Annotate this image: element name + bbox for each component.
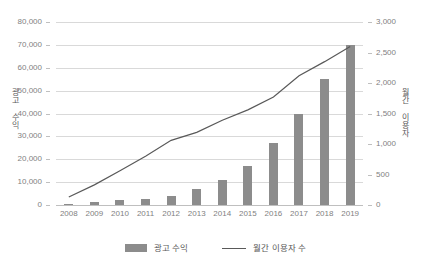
y2-axis-tickmark	[368, 144, 372, 145]
y-axis-tick-label: 80,000	[18, 18, 42, 26]
y2-axis-ticks: 05001,0001,5002,0002,5003,000	[368, 22, 414, 205]
y2-axis-tickmark	[368, 114, 372, 115]
y-axis-tickmark	[46, 114, 50, 115]
chart-legend: 광고 수익 월간 이용자 수	[0, 240, 431, 256]
x-axis-tick-label: 2008	[56, 208, 82, 222]
y2-axis-tick-label: 500	[376, 171, 389, 179]
y-axis-tick-label: 10,000	[18, 178, 42, 186]
legend-label-bar: 광고 수익	[154, 243, 188, 253]
y2-axis-tick-label: 2,500	[376, 49, 396, 57]
y-axis-tickmark	[46, 22, 50, 23]
bar-cell	[107, 22, 133, 205]
y2-axis-tickmark	[368, 175, 372, 176]
y-axis-tick-label: 30,000	[18, 132, 42, 140]
y-axis-ticks: 010,00020,00030,00040,00050,00060,00070,…	[0, 22, 50, 205]
x-axis-tick-label: 2019	[337, 208, 363, 222]
y-axis-tick-label: 40,000	[18, 110, 42, 118]
bar[interactable]	[320, 79, 329, 205]
x-axis-tick-label: 2009	[82, 208, 108, 222]
legend-swatch-line-icon	[222, 248, 246, 249]
legend-swatch-bar-icon	[125, 244, 147, 252]
legend-item-line[interactable]: 월간 이용자 수	[222, 243, 306, 253]
y-axis-tickmark	[46, 136, 50, 137]
bar-series	[56, 22, 363, 205]
bar-cell	[158, 22, 184, 205]
bar[interactable]	[243, 166, 252, 205]
y-axis-tickmark	[46, 45, 50, 46]
y-axis-tickmark	[46, 159, 50, 160]
y2-axis-tick-label: 0	[376, 201, 380, 209]
y-axis-tick-label: 50,000	[18, 87, 42, 95]
bar[interactable]	[218, 180, 227, 205]
y-axis-tick-label: 60,000	[18, 64, 42, 72]
x-axis-tick-label: 2010	[107, 208, 133, 222]
bar-cell	[235, 22, 261, 205]
bar-cell	[133, 22, 159, 205]
y-axis-tickmark	[46, 68, 50, 69]
legend-label-line: 월간 이용자 수	[253, 243, 306, 253]
y2-axis-tickmark	[368, 53, 372, 54]
bar-cell	[261, 22, 287, 205]
y2-axis-tickmark	[368, 22, 372, 23]
y2-axis-tick-label: 1,500	[376, 110, 396, 118]
bar-cell	[82, 22, 108, 205]
x-axis-tick-label: 2013	[184, 208, 210, 222]
x-axis-labels: 2008200920102011201220132014201520162017…	[56, 208, 363, 222]
chart-container: 광고 수익 월간 이용자 010,00020,00030,00040,00050…	[0, 0, 431, 270]
x-axis-tick-label: 2016	[261, 208, 287, 222]
legend-item-bar[interactable]: 광고 수익	[125, 243, 188, 253]
bar-cell	[286, 22, 312, 205]
bar-cell	[184, 22, 210, 205]
bar-cell	[312, 22, 338, 205]
bar[interactable]	[269, 143, 278, 205]
bar-cell	[209, 22, 235, 205]
y2-axis-tickmark	[368, 83, 372, 84]
x-axis-tick-label: 2017	[286, 208, 312, 222]
bar-cell	[337, 22, 363, 205]
y2-axis-tickmark	[368, 205, 372, 206]
y2-axis-tick-label: 3,000	[376, 18, 396, 26]
y-axis-tickmark	[46, 205, 50, 206]
x-axis-tick-label: 2018	[312, 208, 338, 222]
x-axis-tick-label: 2011	[133, 208, 159, 222]
plot-area	[56, 22, 363, 205]
bar[interactable]	[192, 189, 201, 205]
y-axis-tick-label: 0	[38, 201, 42, 209]
y-axis-tick-label: 70,000	[18, 41, 42, 49]
bar[interactable]	[167, 196, 176, 205]
y-axis-tick-label: 20,000	[18, 155, 42, 163]
bar[interactable]	[346, 45, 355, 205]
x-axis-tick-label: 2014	[209, 208, 235, 222]
x-axis-tick-label: 2015	[235, 208, 261, 222]
y-axis-tickmark	[46, 91, 50, 92]
bar-cell	[56, 22, 82, 205]
y-axis-tickmark	[46, 182, 50, 183]
x-axis-line	[56, 205, 363, 206]
y2-axis-tick-label: 1,000	[376, 140, 396, 148]
x-axis-tick-label: 2012	[158, 208, 184, 222]
bar[interactable]	[294, 114, 303, 206]
y2-axis-tick-label: 2,000	[376, 79, 396, 87]
